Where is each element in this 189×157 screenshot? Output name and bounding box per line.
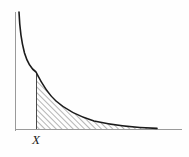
x-axis-marker-label: X <box>32 133 40 146</box>
figure-container: X <box>0 0 189 157</box>
tail-area-diagram <box>0 0 189 157</box>
